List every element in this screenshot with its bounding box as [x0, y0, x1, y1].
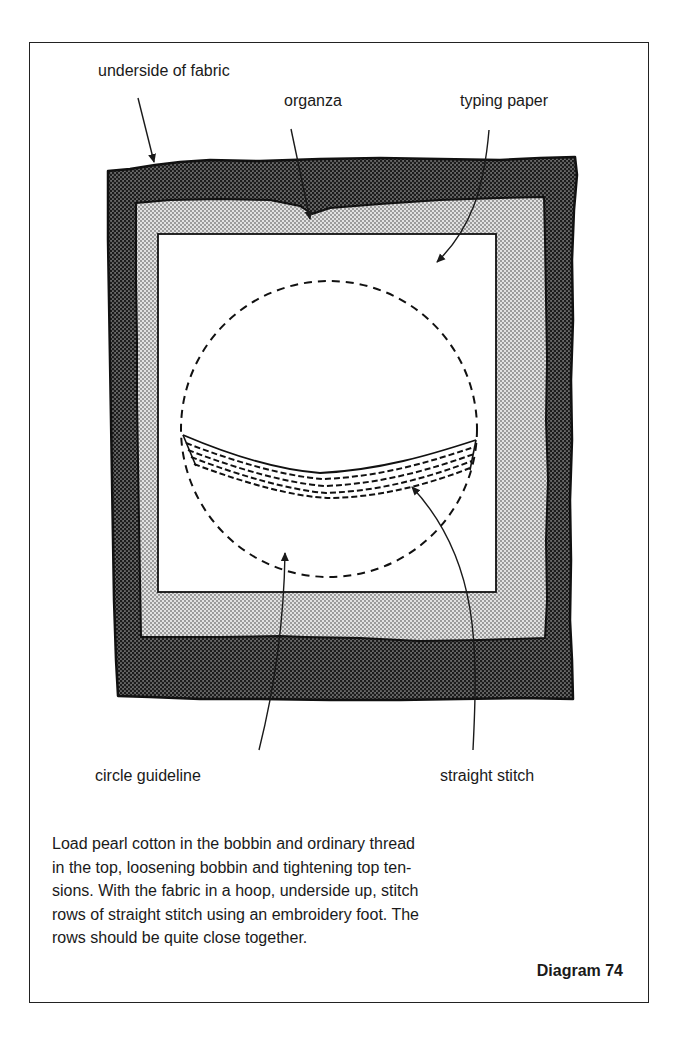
caption-line: in the top, loosening bobbin and tighten… [52, 856, 612, 880]
figure-number: Diagram 74 [537, 962, 623, 980]
caption-line: sions. With the fabric in a hoop, unders… [52, 879, 612, 903]
caption-line: rows of straight stitch using an embroid… [52, 903, 612, 927]
caption-line: Load pearl cotton in the bobbin and ordi… [52, 832, 612, 856]
caption-text: Load pearl cotton in the bobbin and ordi… [52, 832, 612, 950]
label-organza: organza [284, 92, 342, 110]
caption-line: rows should be quite close together. [52, 926, 612, 950]
label-straight-stitch: straight stitch [440, 767, 534, 785]
typing-paper-layer [158, 234, 496, 592]
label-circle-guideline: circle guideline [95, 767, 201, 785]
arrow-underside-of-fabric [138, 98, 154, 162]
label-typing-paper: typing paper [460, 92, 548, 110]
label-underside-of-fabric: underside of fabric [98, 62, 230, 80]
